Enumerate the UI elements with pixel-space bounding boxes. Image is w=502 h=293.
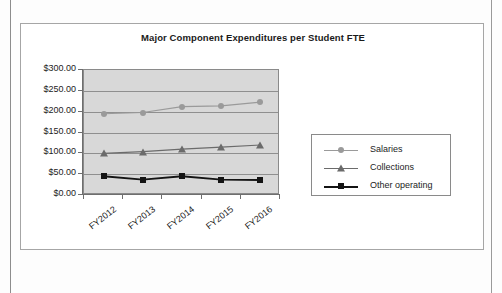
scanned-page: Major Component Expenditures per Student… <box>0 0 502 293</box>
x-axis-label: FY2013 <box>119 204 157 237</box>
legend-item[interactable]: Collections <box>312 159 450 179</box>
data-point-marker <box>217 144 225 151</box>
legend-marker <box>337 165 345 172</box>
legend-item[interactable]: Other operating <box>312 177 450 197</box>
page-border-right <box>491 0 492 293</box>
data-point-marker <box>140 177 146 183</box>
y-axis-label: $0.00 <box>53 188 76 198</box>
y-axis-tick <box>78 90 82 91</box>
legend-marker <box>338 183 344 189</box>
y-axis-tick <box>78 173 82 174</box>
data-point-marker <box>218 177 224 183</box>
legend-label: Salaries <box>370 144 403 154</box>
data-point-marker <box>179 173 185 179</box>
x-axis-tick <box>240 195 241 199</box>
y-axis-tick <box>78 111 82 112</box>
chart-title: Major Component Expenditures per Student… <box>21 32 485 43</box>
legend-label: Collections <box>370 162 414 172</box>
y-axis-label: $200.00 <box>43 105 76 115</box>
x-axis-tick <box>83 195 84 199</box>
legend-marker <box>338 147 344 153</box>
legend-item[interactable]: Salaries <box>312 141 450 161</box>
y-axis-label: $100.00 <box>43 146 76 156</box>
y-axis-label: $50.00 <box>48 167 76 177</box>
y-axis-label: $250.00 <box>43 84 76 94</box>
chart-legend: SalariesCollectionsOther operating <box>311 134 451 196</box>
x-axis-tick <box>201 195 202 199</box>
data-point-marker <box>101 111 107 117</box>
data-point-marker <box>178 146 186 153</box>
data-point-marker <box>100 150 108 157</box>
y-axis-tick <box>78 132 82 133</box>
y-axis-tick <box>78 152 82 153</box>
x-axis-label: FY2015 <box>198 204 236 237</box>
y-axis-labels: $300.00$250.00$200.00$150.00$100.00$50.0… <box>21 69 76 195</box>
data-point-marker <box>257 99 263 105</box>
y-axis-label: $300.00 <box>43 63 76 73</box>
data-point-marker <box>140 110 146 116</box>
x-axis-line <box>82 194 280 195</box>
data-point-marker <box>257 177 263 183</box>
x-axis-label: FY2016 <box>237 204 275 237</box>
data-point-marker <box>101 173 107 179</box>
data-point-marker <box>139 148 147 155</box>
data-point-marker <box>256 142 264 149</box>
y-axis-line <box>82 69 83 195</box>
y-axis-label: $150.00 <box>43 126 76 136</box>
chart-frame: Major Component Expenditures per Student… <box>20 23 484 250</box>
x-axis-label: FY2014 <box>158 204 196 237</box>
data-point-marker <box>179 104 185 110</box>
data-point-marker <box>218 103 224 109</box>
x-axis-tick <box>279 195 280 199</box>
x-axis-tick <box>161 195 162 199</box>
page-border-left <box>10 0 11 293</box>
y-axis-tick <box>78 69 82 70</box>
legend-label: Other operating <box>370 180 433 190</box>
x-axis-tick <box>122 195 123 199</box>
plot-area <box>83 69 279 194</box>
x-axis-label: FY2012 <box>80 204 118 237</box>
